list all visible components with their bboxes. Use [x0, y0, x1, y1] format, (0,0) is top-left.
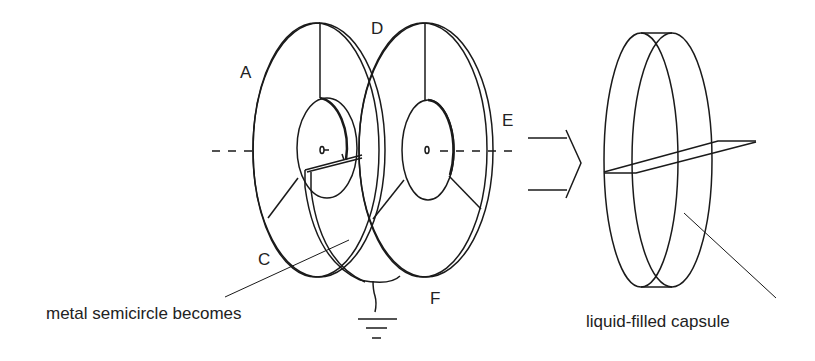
liquid-filled-capsule [604, 33, 756, 287]
label-e: E [502, 112, 513, 129]
ground-symbol [358, 281, 397, 338]
leader-line-left [225, 240, 349, 297]
caption-liquid-filled-capsule: liquid-filled capsule [586, 313, 730, 330]
label-d: D [371, 20, 383, 37]
caption-metal-semicircle: metal semicircle becomes [46, 305, 242, 322]
transform-arrow-icon [528, 130, 581, 198]
label-c: C [258, 251, 270, 268]
label-f: F [430, 290, 440, 307]
label-a: A [240, 64, 251, 81]
